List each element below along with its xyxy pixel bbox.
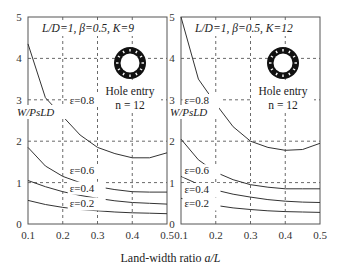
series-label: ε=0.6 [184,164,209,176]
series-label: ε=0.6 [70,164,95,176]
series-label: ε=0.4 [184,183,209,195]
x-tick-label: 0.2 [56,229,70,241]
x-tick-label: 0.1 [174,229,188,241]
y-tick-label: 1 [169,177,175,189]
series-label: ε=0.8 [184,94,209,106]
y-axis-label: W/PsLD [170,106,207,118]
series-label: ε=0.2 [184,197,209,209]
panel-title: L/D=1, β=0.5, K=9 [41,22,134,35]
series-label: ε=0.2 [70,197,95,209]
y-tick-label: 0 [169,218,175,230]
x-tick-label: 0.1 [21,229,35,241]
y-tick-label: 0 [16,218,22,230]
y-tick-label: 4 [16,52,22,64]
bearing-bore-icon [274,54,293,73]
x-axis-label-variable: a/L [204,251,220,265]
x-tick-label: 0.3 [91,229,105,241]
x-tick-label: 0.5 [313,229,327,241]
y-tick-label: 2 [169,135,175,147]
y-axis-label: W/PsLD [17,106,54,118]
inset-label: Hole entry [259,85,308,98]
x-tick-label: 0.3 [244,229,258,241]
y-tick-label: 3 [16,94,22,106]
y-tick-label: 3 [169,94,175,106]
x-tick-label: 0.4 [278,229,292,241]
bearing-bore-icon [121,54,140,73]
panel-title: L/D=1, β=0.5, K=12 [194,22,293,35]
figure-canvas: 0.10.20.30.40.5012345ε=0.8ε=0.6ε=0.4ε=0.… [0,0,341,274]
inset-label: Hole entry [106,85,155,98]
x-tick-label: 0.2 [209,229,223,241]
inset-n: n = 12 [268,99,298,111]
series-label: ε=0.4 [70,182,95,194]
y-tick-label: 4 [169,52,175,64]
y-tick-label: 5 [169,11,175,23]
chart-panel-k12: 0.10.20.30.40.5012345ε=0.8ε=0.6ε=0.4ε=0.… [169,11,327,241]
x-tick-label: 0.5 [160,229,174,241]
series-label: ε=0.8 [70,94,95,106]
chart-panel-k9: 0.10.20.30.40.5012345ε=0.8ε=0.6ε=0.4ε=0.… [16,11,174,241]
y-tick-label: 5 [16,11,22,23]
x-axis-label-text: Land-width ratio [121,251,205,265]
y-tick-label: 2 [16,135,22,147]
x-axis-label: Land-width ratio a/L [0,251,341,266]
inset-n: n = 12 [115,99,145,111]
x-tick-label: 0.4 [125,229,139,241]
y-tick-label: 1 [16,177,22,189]
